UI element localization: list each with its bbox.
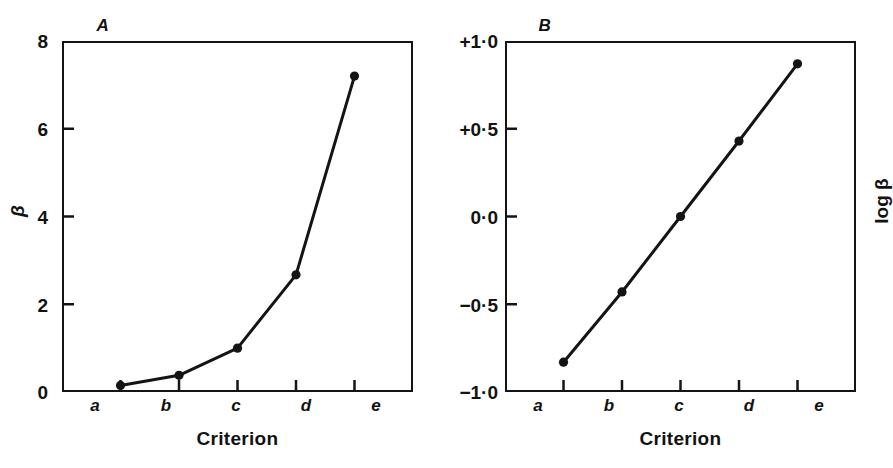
- panel-b-xtick-e: e: [799, 396, 839, 416]
- panel-a-xtick-e: e: [356, 396, 396, 416]
- panel-a-ytick-2: 2: [0, 296, 48, 315]
- panel-b-ytick-neg05: −0·5: [442, 296, 498, 315]
- panel-a-yaxis-title: β: [7, 181, 29, 241]
- panel-a-title: A: [0, 16, 324, 36]
- panel-a-ytick-6: 6: [0, 120, 48, 139]
- panel-a-xtick-a: a: [75, 396, 115, 416]
- panel-b-xtick-a: a: [518, 396, 558, 416]
- panel-b-plot-frame: [505, 41, 856, 392]
- panel-a-xtick-b: b: [146, 396, 186, 416]
- panel-a-plot-frame: [62, 41, 413, 392]
- panel-a-xaxis-title: Criterion: [62, 428, 413, 450]
- panel-a-xtick-c: c: [216, 396, 256, 416]
- panel-b: B +1·0 +0·5 0·0 −0·5 −1·0 a b c d e Crit…: [442, 0, 884, 468]
- panel-b-ytick-pos1: +1·0: [442, 32, 498, 51]
- panel-b-xtick-b: b: [589, 396, 629, 416]
- panel-b-yaxis-title: log β: [871, 165, 893, 237]
- panel-b-ytick-zero: 0·0: [442, 208, 498, 227]
- panel-a-ytick-8: 8: [0, 32, 48, 51]
- panel-b-xtick-d: d: [729, 396, 769, 416]
- panel-b-ytick-neg1: −1·0: [442, 383, 498, 402]
- panel-b-xtick-c: c: [659, 396, 699, 416]
- panel-b-title: B: [324, 16, 766, 36]
- panel-a-xtick-d: d: [286, 396, 326, 416]
- panel-b-ytick-pos05: +0·5: [442, 120, 498, 139]
- panel-b-xaxis-title: Criterion: [505, 428, 856, 450]
- panel-a: A 8 6 4 2 0 a b c d e Criterion β: [0, 0, 442, 468]
- panel-a-ytick-0: 0: [0, 383, 48, 402]
